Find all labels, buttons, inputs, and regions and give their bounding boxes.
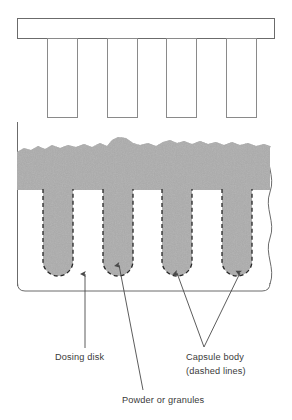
annotation-labels: Dosing disk Powder or granules Capsule b…	[55, 352, 246, 405]
capsule-bodies	[43, 189, 252, 276]
tamping-pin-2	[108, 39, 138, 118]
label-capsule-body-sub: (dashed lines)	[186, 366, 246, 376]
label-dosing-disk: Dosing disk	[55, 352, 104, 362]
tamping-pin-assembly	[18, 19, 275, 118]
tamping-pin-3	[167, 39, 197, 118]
leader-capsule-left	[177, 273, 204, 347]
powder-bed	[17, 130, 270, 192]
leader-capsule-right	[204, 273, 240, 347]
label-powder-or-granules: Powder or granules	[122, 395, 205, 405]
dosing-disk-diagram: Dosing disk Powder or granules Capsule b…	[0, 0, 292, 420]
label-capsule-body: Capsule body	[186, 352, 244, 362]
tamping-pin-1	[48, 39, 78, 118]
tamping-pin-4	[227, 39, 257, 118]
leader-powder	[119, 265, 143, 390]
tamping-bar	[18, 19, 275, 39]
